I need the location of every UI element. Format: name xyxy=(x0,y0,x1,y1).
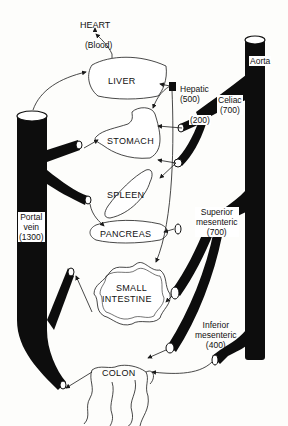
hepatic-name: Hepatic xyxy=(180,84,209,94)
sup-mes-line2: mesenteric xyxy=(196,217,238,227)
portal-line1: Portal xyxy=(19,212,44,222)
inf-mes-flow: (400) xyxy=(195,340,237,350)
hepatic-label: Hepatic (500) xyxy=(180,84,209,104)
portal-line2: vein xyxy=(19,222,44,232)
pancreas-label: PANCREAS xyxy=(100,229,151,239)
stomach-shape xyxy=(95,108,160,159)
hepatic-flow: (500) xyxy=(180,94,209,104)
portal-flow: (1300) xyxy=(19,232,44,242)
portal-vein-label: Portal vein (1300) xyxy=(18,212,45,242)
small-intestine-label-2: INTESTINE xyxy=(102,294,152,304)
celiac-branch-flow: (200) xyxy=(189,115,211,125)
celiac-name: Celiac xyxy=(218,95,242,105)
small-intestine-label-1: SMALL xyxy=(116,283,147,293)
colon-label: COLON xyxy=(102,368,136,378)
spleen-label: SPLEEN xyxy=(107,190,144,200)
superior-mesenteric-label: Superior mesenteric (700) xyxy=(195,207,239,237)
sup-mes-flow: (700) xyxy=(196,227,238,237)
heart-label: HEART xyxy=(80,20,110,30)
celiac-flow: (700) xyxy=(218,105,242,115)
hepatic-artery xyxy=(169,82,176,91)
celiac-label: Celiac (700) xyxy=(217,95,243,115)
portal-vein-vessel xyxy=(17,111,88,390)
liver-label: LIVER xyxy=(108,76,136,86)
aorta-label: Aorta xyxy=(249,56,271,66)
stomach-label: STOMACH xyxy=(107,136,154,146)
heart-blood-label: (Blood) xyxy=(85,40,112,50)
inferior-mesenteric-label: Inferior mesenteric (400) xyxy=(195,320,237,350)
sup-mes-line1: Superior xyxy=(196,207,238,217)
inf-mes-line1: Inferior xyxy=(195,320,237,330)
inf-mes-line2: mesenteric xyxy=(195,330,237,340)
